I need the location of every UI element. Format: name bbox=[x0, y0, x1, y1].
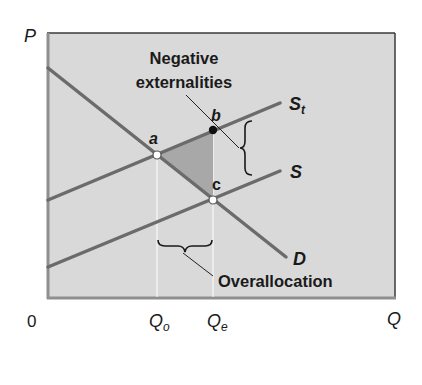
point-b-marker bbox=[209, 126, 217, 134]
point-c-label: c bbox=[212, 176, 221, 193]
point-c-marker bbox=[209, 196, 217, 204]
curve-d-label: D bbox=[293, 249, 306, 269]
point-b-label: b bbox=[211, 107, 221, 124]
qe-tick-label: Qe bbox=[207, 311, 228, 334]
origin-label: 0 bbox=[27, 312, 36, 331]
externality-diagram: a b c St S D Negative externalities Over… bbox=[0, 0, 422, 385]
q-axis-label: Q bbox=[387, 309, 401, 329]
point-a-marker bbox=[153, 151, 161, 159]
overallocation-label: Overallocation bbox=[218, 272, 333, 290]
p-axis-label: P bbox=[24, 26, 36, 46]
qo-tick-label: Qo bbox=[149, 311, 170, 334]
point-a-label: a bbox=[149, 130, 158, 147]
neg-ext-label-line2: externalities bbox=[136, 73, 232, 91]
curve-s-label: S bbox=[290, 162, 302, 182]
neg-ext-label-line1: Negative bbox=[150, 49, 219, 67]
